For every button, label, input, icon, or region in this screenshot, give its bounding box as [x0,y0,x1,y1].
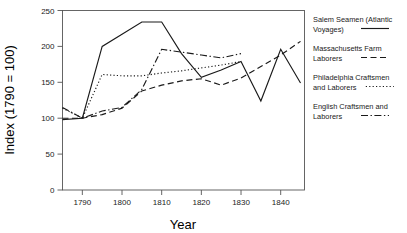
y-axis-title: Index (1790 = 100) [2,45,17,155]
x-tick-label: 1810 [153,198,171,207]
x-tick-label: 1830 [232,198,250,207]
legend-label-line2: and Laborers [313,83,357,92]
x-tick-label: 1840 [272,198,290,207]
y-tick-label: 150 [41,78,55,87]
y-tick-label: 50 [46,150,55,159]
chart-figure: 050100150200250 179018001810182018301840… [0,0,407,233]
legend-label-line1: Salem Seamen (Atlantic [313,15,393,24]
chart-svg: 050100150200250 179018001810182018301840… [0,0,407,233]
x-tick-label: 1790 [73,198,91,207]
legend-label-line1: English Craftsmen and [313,102,388,111]
y-tick-label: 0 [50,186,55,195]
legend-label-line2: Laborers [313,54,342,63]
legend-label-line1: Massachusetts Farm [313,44,382,53]
x-tick-label: 1800 [113,198,131,207]
legend-label-line2: Laborers [313,112,342,121]
y-tick-label: 200 [41,42,55,51]
x-axis-title: Year [170,217,197,232]
y-tick-label: 100 [41,114,55,123]
x-tick-label: 1820 [192,198,210,207]
legend-label-line1: Philadelphia Craftsmen [313,73,389,82]
y-tick-label: 250 [41,7,55,16]
legend-label-line2: Voyages) [313,25,344,34]
